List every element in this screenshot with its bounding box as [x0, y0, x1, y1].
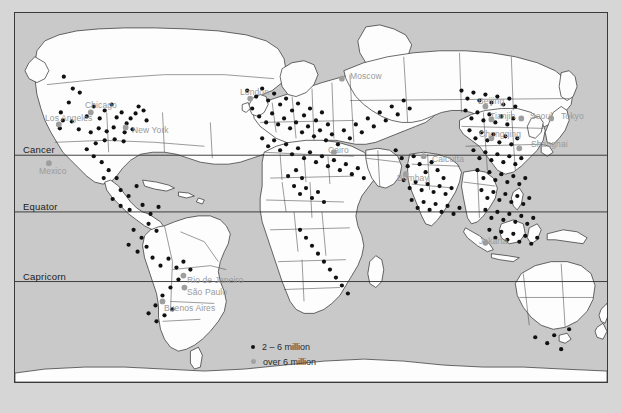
city-dot-small — [471, 148, 475, 152]
city-dot-small — [314, 118, 318, 122]
city-dot-small — [451, 212, 455, 216]
city-dot-small — [316, 252, 320, 256]
city-dot-small — [278, 148, 282, 152]
city-dot-small — [467, 128, 471, 132]
city-dot-small — [487, 170, 491, 174]
city-dot-small — [410, 198, 414, 202]
city-dot-small — [135, 250, 139, 254]
latitude-label-cancer: Cancer — [23, 144, 55, 155]
city-label-moscow: Moscow — [350, 71, 382, 81]
city-dot-small — [338, 168, 342, 172]
city-dot-small — [505, 122, 509, 126]
city-dot-small — [85, 147, 89, 151]
city-dot-small — [266, 144, 270, 148]
city-dot-small — [298, 192, 302, 196]
city-dot-small — [308, 150, 312, 154]
city-dot-small — [284, 142, 288, 146]
city-label-rio-de-janeiro: Rio de Janeiro — [187, 275, 243, 285]
city-dot-small — [507, 96, 511, 100]
city-dot-small — [136, 104, 140, 108]
city-dot-small — [356, 166, 360, 170]
city-dot-small — [166, 257, 170, 261]
city-dot-small — [188, 268, 192, 272]
city-label-chongqing: Chongqing — [479, 129, 521, 139]
city-label-beijing: Beijing — [478, 96, 504, 106]
city-dot-small — [308, 106, 312, 110]
city-dot-small — [146, 222, 150, 226]
city-dot-small — [505, 180, 509, 184]
city-dot-small — [105, 129, 109, 133]
city-dot-small — [475, 168, 479, 172]
tasmania-shape — [559, 333, 571, 343]
city-dot-small — [257, 114, 261, 118]
city-dot-small — [515, 194, 519, 198]
city-dot-small — [276, 122, 280, 126]
city-dot-small — [497, 140, 501, 144]
city-dot-small — [123, 130, 127, 134]
latitude-label-equator: Equator — [23, 201, 58, 212]
city-dot-small — [154, 229, 158, 233]
city-dot-small — [372, 124, 376, 128]
city-dot-small — [344, 162, 348, 166]
city-dot-small — [294, 168, 298, 172]
city-dot-small — [292, 184, 296, 188]
city-dot-small — [495, 210, 499, 214]
city-dot-small — [296, 101, 300, 105]
city-dot-small — [511, 174, 515, 178]
city-dot-small — [501, 160, 505, 164]
city-dot-small — [479, 188, 483, 192]
city-dot-small — [445, 204, 449, 208]
city-dot-large — [181, 273, 187, 279]
city-dot-small — [312, 134, 316, 138]
city-dot-small — [120, 110, 124, 114]
city-dot-small — [396, 112, 400, 116]
city-dot-small — [107, 168, 111, 172]
city-dot-small — [89, 130, 93, 134]
city-dot-small — [332, 158, 336, 162]
city-dot-small — [439, 210, 443, 214]
city-dot-small — [507, 154, 511, 158]
city-dot-small — [545, 341, 549, 345]
city-dot-small — [174, 266, 178, 270]
city-dot-small — [92, 154, 96, 158]
city-dot-small — [294, 120, 298, 124]
city-dot-small — [94, 141, 98, 145]
java-shape — [491, 254, 519, 262]
city-dot-small — [314, 160, 318, 164]
city-dot-small — [250, 106, 254, 110]
city-dot-small — [304, 236, 308, 240]
philippines-shape — [511, 188, 523, 210]
cuba-shape — [143, 180, 175, 191]
city-dot-small — [122, 139, 126, 143]
city-dot-large — [421, 153, 427, 159]
city-dot-small — [362, 176, 366, 180]
city-dot-small — [513, 220, 517, 224]
city-dot-small — [100, 160, 104, 164]
city-dot-small — [463, 108, 467, 112]
city-dot-small — [300, 130, 304, 134]
small-dot-icon — [251, 345, 255, 349]
city-dot-small — [437, 184, 441, 188]
city-dot-small — [290, 108, 294, 112]
city-label-tokyo: Tokyo — [561, 111, 584, 121]
city-dot-small — [366, 116, 370, 120]
city-dot-small — [156, 205, 160, 209]
city-dot-small — [342, 128, 346, 132]
city-dot-small — [465, 96, 469, 100]
city-dot-small — [304, 186, 308, 190]
city-dot-small — [98, 116, 102, 120]
city-dot-small — [469, 116, 473, 120]
city-dot-small — [115, 176, 119, 180]
city-dot-small — [491, 190, 495, 194]
city-dot-small — [115, 115, 119, 119]
city-dot-small — [318, 128, 322, 132]
city-dot-small — [272, 138, 276, 142]
city-dot-small — [129, 116, 133, 120]
city-dot-small — [499, 172, 503, 176]
legend-label-2-6-million: 2 – 6 million — [262, 342, 310, 352]
city-dot-small — [158, 264, 162, 268]
city-dot-small — [162, 313, 166, 317]
city-dot-small — [326, 164, 330, 168]
city-dot-small — [302, 156, 306, 160]
city-dot-small — [418, 162, 422, 166]
